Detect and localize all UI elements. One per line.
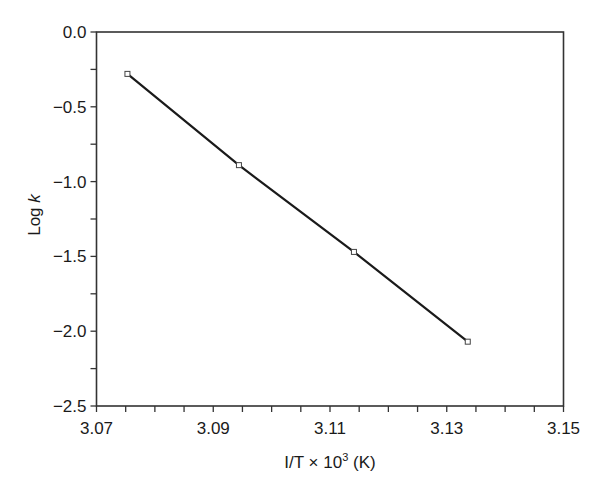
svg-text:I/T × 103 (K): I/T × 103 (K): [284, 451, 375, 472]
y-tick-label: −1.5: [53, 247, 87, 266]
arrhenius-plot: Log k I/T × 103 (K) 3.073.093.113.133.15…: [0, 0, 603, 493]
axis-ticks: [91, 32, 564, 412]
series-line: [127, 74, 467, 342]
y-tick-label: 0.0: [63, 23, 87, 42]
data-point-marker: [351, 249, 356, 254]
plot-frame: [97, 32, 564, 406]
y-tick-label: −0.5: [53, 98, 87, 117]
axis-tick-labels: 3.073.093.113.133.150.0−0.5−1.0−1.5−2.0−…: [53, 23, 580, 438]
x-tick-label: 3.07: [80, 419, 113, 438]
x-tick-label: 3.11: [314, 419, 346, 438]
y-axis-label: Log k: [25, 193, 44, 236]
x-tick-label: 3.09: [197, 419, 230, 438]
y-tick-label: −1.0: [53, 173, 87, 192]
data-point-marker: [465, 339, 470, 344]
x-tick-label: 3.13: [430, 419, 463, 438]
data-series: [125, 71, 470, 344]
x-tick-label: 3.15: [547, 419, 580, 438]
svg-text:Log k: Log k: [25, 193, 44, 236]
data-point-marker: [125, 71, 130, 76]
y-tick-label: −2.0: [53, 322, 87, 341]
y-tick-label: −2.5: [53, 397, 87, 416]
x-axis-label: I/T × 103 (K): [284, 451, 375, 472]
data-point-marker: [236, 163, 241, 168]
